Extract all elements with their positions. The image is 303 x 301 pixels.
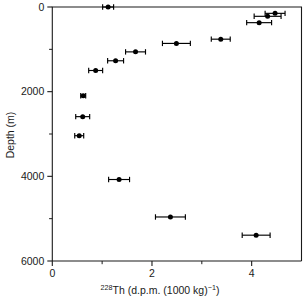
x-axis-title: 228Th (d.p.m. (1000 kg)−1) bbox=[101, 283, 220, 296]
data-point bbox=[247, 20, 272, 25]
scatter-plot: 0200040006000 024 Depth (m) 228Th (d.p.m… bbox=[0, 0, 303, 301]
data-marker bbox=[265, 14, 270, 19]
data-marker bbox=[133, 49, 138, 54]
data-point bbox=[211, 36, 230, 41]
data-marker bbox=[117, 177, 122, 182]
data-point bbox=[81, 93, 86, 98]
data-marker bbox=[106, 5, 111, 10]
data-point bbox=[109, 177, 130, 182]
x-tick-label: 0 bbox=[49, 267, 55, 279]
data-point bbox=[108, 58, 124, 63]
data-marker bbox=[218, 37, 223, 42]
data-point bbox=[103, 4, 114, 9]
y-tick-label: 6000 bbox=[21, 255, 45, 267]
data-point bbox=[75, 133, 84, 138]
data-marker bbox=[81, 93, 86, 98]
y-tick-label: 4000 bbox=[21, 170, 45, 182]
data-marker bbox=[273, 11, 278, 16]
y-axis-tick-labels: 0200040006000 bbox=[21, 1, 45, 267]
data-marker bbox=[80, 114, 85, 119]
x-axis-title-close: ) bbox=[216, 284, 220, 296]
data-series-layer bbox=[75, 4, 285, 238]
y-axis-ticks bbox=[47, 7, 52, 261]
x-axis-title-main: Th (d.p.m. (1000 kg) bbox=[113, 284, 208, 296]
data-point bbox=[126, 49, 146, 54]
data-marker bbox=[93, 68, 98, 73]
chart-figure: 0200040006000 024 Depth (m) 228Th (d.p.m… bbox=[0, 0, 303, 301]
y-tick-label: 0 bbox=[38, 1, 44, 13]
data-marker bbox=[174, 41, 179, 46]
data-point bbox=[242, 232, 270, 237]
y-tick-label: 2000 bbox=[21, 85, 45, 97]
x-tick-label: 2 bbox=[149, 267, 155, 279]
x-tick-label: 4 bbox=[249, 267, 255, 279]
data-marker bbox=[257, 20, 262, 25]
data-point bbox=[155, 214, 185, 219]
x-axis-title-superscript: 228 bbox=[101, 283, 113, 292]
data-marker bbox=[77, 133, 82, 138]
data-marker bbox=[113, 58, 118, 63]
data-point bbox=[76, 114, 90, 119]
x-axis-tick-labels: 024 bbox=[49, 267, 254, 279]
data-marker bbox=[168, 214, 173, 219]
y-axis-title: Depth (m) bbox=[4, 112, 16, 159]
data-point bbox=[162, 41, 190, 46]
x-axis-ticks bbox=[52, 261, 251, 266]
x-axis-title-exponent: −1 bbox=[208, 283, 216, 292]
data-marker bbox=[254, 233, 259, 238]
data-point bbox=[89, 68, 103, 73]
